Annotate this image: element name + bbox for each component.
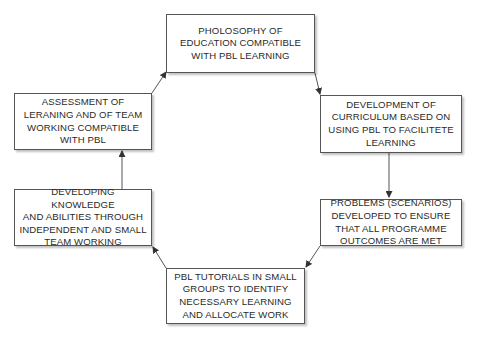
arrow-assessment-to-philosophy <box>152 72 166 93</box>
node-tutorials: PBL TUTORIALS IN SMALL GROUPS TO IDENTIF… <box>166 268 305 324</box>
node-assessment: ASSESSMENT OF LERANING AND OF TEAM WORKI… <box>14 93 152 150</box>
node-developing-label: DEVELOPING KNOWLEDGE AND ABILITIES THROU… <box>19 186 147 249</box>
node-philosophy-label: PHOLOSOPHY OF EDUCATION COMPATIBLE WITH … <box>180 25 301 63</box>
node-assessment-label: ASSESSMENT OF LERANING AND OF TEAM WORKI… <box>24 96 143 146</box>
node-philosophy: PHOLOSOPHY OF EDUCATION COMPATIBLE WITH … <box>166 14 315 73</box>
arrow-tutorials-to-developing <box>153 247 166 268</box>
node-curriculum: DEVELOPMENT OF CURRICULUM BASED ON USING… <box>320 95 462 153</box>
arrow-problems-to-tutorials <box>306 246 320 267</box>
arrow-philosophy-to-curriculum <box>315 73 320 94</box>
node-problems-label: PROBLEMS (SCENARIOS) DEVELOPED TO ENSURE… <box>331 197 452 247</box>
node-curriculum-label: DEVELOPMENT OF CURRICULUM BASED ON USING… <box>328 99 453 149</box>
node-developing: DEVELOPING KNOWLEDGE AND ABILITIES THROU… <box>14 189 152 246</box>
node-tutorials-label: PBL TUTORIALS IN SMALL GROUPS TO IDENTIF… <box>174 271 297 321</box>
node-problems: PROBLEMS (SCENARIOS) DEVELOPED TO ENSURE… <box>320 199 462 246</box>
